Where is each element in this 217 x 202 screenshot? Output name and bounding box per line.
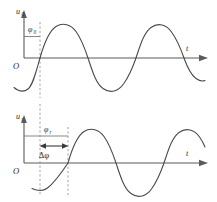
top-phase-subscript: 0 xyxy=(34,29,37,35)
bottom-phase-label: φ xyxy=(44,125,49,134)
bottom-origin-label: O xyxy=(13,166,19,176)
delta-phi-label: Δφ xyxy=(39,150,49,160)
top-time-axis-arrowhead xyxy=(199,55,208,61)
top-phase-label: φ xyxy=(28,25,33,34)
top-origin-label: O xyxy=(13,61,19,71)
phase-difference-figure: u 0 O t φ 0 xyxy=(0,0,217,202)
bottom-time-axis-arrowhead xyxy=(199,160,208,166)
delta-phi-arrowhead-right xyxy=(62,143,69,149)
top-panel: u 0 O t φ 0 xyxy=(13,7,208,98)
bottom-panel: u r O t φ r Δφ xyxy=(13,104,208,196)
bottom-time-axis-label: t xyxy=(186,149,189,158)
top-signal-axis-label: u xyxy=(16,7,20,16)
top-signal-axis-subscript: 0 xyxy=(21,11,24,17)
delta-phi-arrowhead-left xyxy=(40,143,47,149)
bottom-phase-subscript: r xyxy=(50,129,53,135)
bottom-signal-axis-label: u xyxy=(16,112,20,121)
top-time-axis-label: t xyxy=(186,44,189,53)
figure-canvas: u 0 O t φ 0 xyxy=(0,0,217,202)
